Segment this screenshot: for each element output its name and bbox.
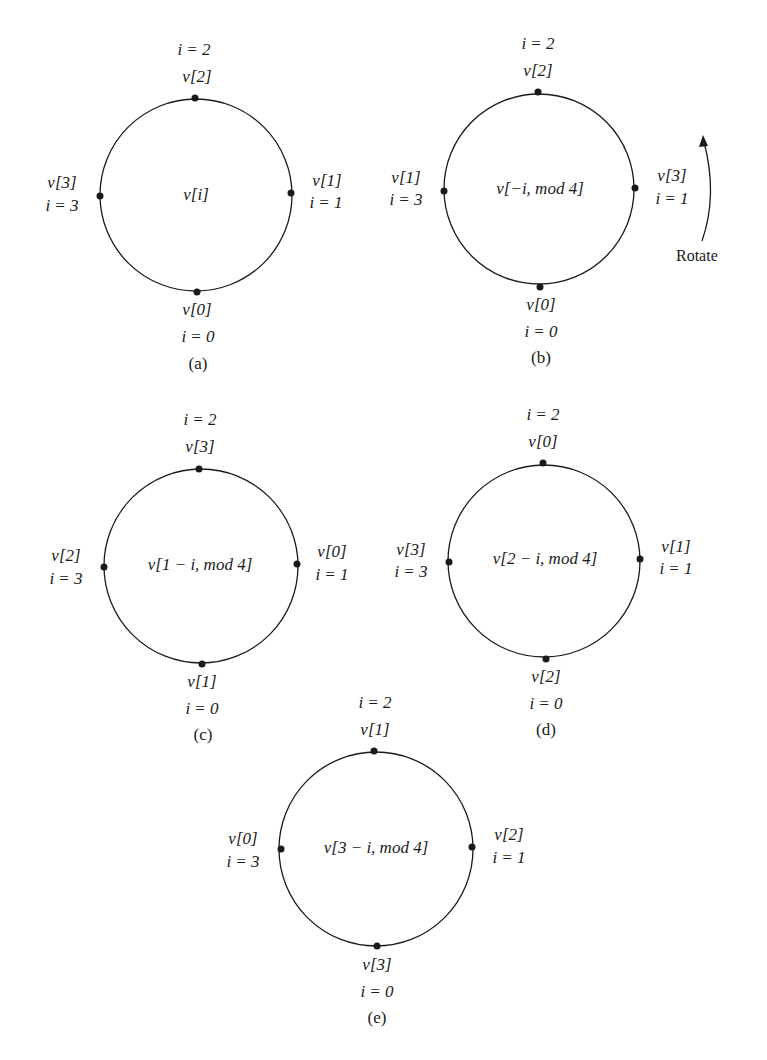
node-bottom-e xyxy=(374,943,381,950)
caption-e: (e) xyxy=(368,1008,387,1028)
label-top-index-c: i = 2 xyxy=(183,410,216,429)
node-bottom-c xyxy=(199,661,206,668)
node-left-c xyxy=(101,564,108,571)
label-left-index-e: i = 3 xyxy=(226,852,259,871)
node-bottom-d xyxy=(543,656,550,663)
label-left-value-e: v[0] xyxy=(228,829,257,848)
node-left-d xyxy=(446,559,453,566)
node-right-c xyxy=(294,561,301,568)
label-right-value-c: v[0] xyxy=(317,542,346,561)
center-expression-a: v[i] xyxy=(183,185,209,205)
node-right-b xyxy=(632,185,639,192)
caption-b: (b) xyxy=(531,348,551,368)
center-expression-b: v[−i, mod 4] xyxy=(496,179,584,199)
label-right-value-a: v[1] xyxy=(312,171,341,190)
label-left-index-c: i = 3 xyxy=(49,569,82,588)
label-right-index-c: i = 1 xyxy=(315,565,348,584)
label-bottom-index-d: i = 0 xyxy=(529,694,562,713)
caption-c: (c) xyxy=(194,725,213,745)
label-right-index-b: i = 1 xyxy=(655,189,688,208)
node-left-a xyxy=(97,193,104,200)
label-bottom-value-d: v[2] xyxy=(531,667,560,686)
label-left-value-b: v[1] xyxy=(391,168,420,187)
label-right-value-e: v[2] xyxy=(494,825,523,844)
label-top-value-d: v[0] xyxy=(528,432,557,451)
node-bottom-a xyxy=(194,289,201,296)
label-top-value-b: v[2] xyxy=(523,61,552,80)
label-top-value-c: v[3] xyxy=(185,437,214,456)
node-bottom-b xyxy=(537,284,544,291)
node-top-d xyxy=(540,460,547,467)
label-top-index-b: i = 2 xyxy=(521,34,554,53)
center-expression-c: v[1 − i, mod 4] xyxy=(148,555,253,575)
node-left-b xyxy=(441,188,448,195)
label-bottom-index-c: i = 0 xyxy=(185,699,218,718)
label-left-index-a: i = 3 xyxy=(45,196,78,215)
diagram-canvas xyxy=(0,0,767,1060)
label-right-value-b: v[3] xyxy=(657,166,686,185)
caption-d: (d) xyxy=(536,720,556,740)
center-expression-e: v[3 − i, mod 4] xyxy=(324,838,429,858)
label-top-value-a: v[2] xyxy=(182,67,211,86)
label-left-value-a: v[3] xyxy=(47,173,76,192)
caption-a: (a) xyxy=(189,354,208,374)
node-top-a xyxy=(192,95,199,102)
label-bottom-index-e: i = 0 xyxy=(360,982,393,1001)
label-top-index-d: i = 2 xyxy=(526,405,559,424)
label-bottom-value-c: v[1] xyxy=(187,672,216,691)
label-top-index-a: i = 2 xyxy=(177,40,210,59)
label-bottom-index-a: i = 0 xyxy=(181,327,214,346)
label-right-value-d: v[1] xyxy=(661,537,690,556)
label-left-value-c: v[2] xyxy=(51,546,80,565)
label-left-value-d: v[3] xyxy=(396,540,425,559)
label-top-value-e: v[1] xyxy=(360,720,389,739)
center-expression-d: v[2 − i, mod 4] xyxy=(493,549,598,569)
node-top-e xyxy=(371,748,378,755)
label-left-index-d: i = 3 xyxy=(394,562,427,581)
node-top-b xyxy=(535,89,542,96)
label-right-index-d: i = 1 xyxy=(659,559,692,578)
node-right-e xyxy=(469,844,476,851)
node-left-e xyxy=(278,846,285,853)
label-bottom-value-b: v[0] xyxy=(526,295,555,314)
label-left-index-b: i = 3 xyxy=(389,190,422,209)
node-top-c xyxy=(196,466,203,473)
label-right-index-a: i = 1 xyxy=(309,193,342,212)
label-bottom-index-b: i = 0 xyxy=(524,322,557,341)
node-right-a xyxy=(288,190,295,197)
label-bottom-value-a: v[0] xyxy=(182,300,211,319)
label-bottom-value-e: v[3] xyxy=(362,955,391,974)
rotate-arrow-icon xyxy=(699,135,711,241)
label-right-index-e: i = 1 xyxy=(492,848,525,867)
node-right-d xyxy=(637,556,644,563)
rotate-label: Rotate xyxy=(676,247,718,265)
label-top-index-e: i = 2 xyxy=(358,693,391,712)
